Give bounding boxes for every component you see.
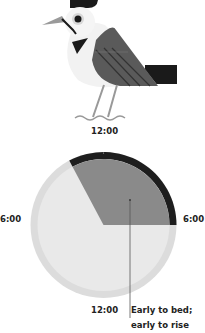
clock-label-right: 6:00 xyxy=(183,214,204,224)
annotation-line-1: Early to bed; xyxy=(131,303,192,318)
clock-label-bottom: 12:00 xyxy=(91,305,118,315)
bird-cap xyxy=(70,0,98,8)
annotation-text: Early to bed; early to rise xyxy=(131,303,192,333)
bird-legs xyxy=(93,85,117,117)
clock-label-left: 6:00 xyxy=(0,214,21,224)
bird-ground xyxy=(75,116,125,120)
bird-illustration xyxy=(0,0,205,125)
annotation-line-2: early to rise xyxy=(131,318,192,333)
